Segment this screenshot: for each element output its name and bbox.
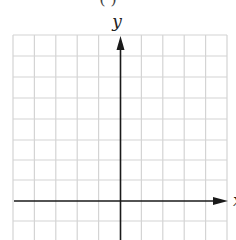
figure-caption: ( ) <box>99 0 117 8</box>
coordinate-grid-figure: ( ) y x <box>0 0 236 240</box>
x-axis-label: x <box>233 190 236 210</box>
y-axis-arrow-icon <box>117 36 125 50</box>
x-axis-arrow-icon <box>213 197 228 205</box>
y-axis-label: y <box>111 11 122 31</box>
y-axis <box>117 36 125 240</box>
